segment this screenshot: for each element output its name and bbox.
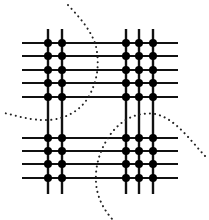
vertex-node	[58, 147, 66, 155]
vertex-node	[135, 79, 143, 87]
vertex-node	[122, 52, 130, 60]
vertex-node	[149, 147, 157, 155]
horizontal-lines	[22, 43, 178, 178]
vertex-node	[58, 66, 66, 74]
vertex-node	[135, 39, 143, 47]
vertex-node	[58, 79, 66, 87]
vertex-node	[149, 134, 157, 142]
vertex-node	[135, 66, 143, 74]
vertex-node	[58, 39, 66, 47]
vertex-node	[58, 134, 66, 142]
vertex-node	[149, 39, 157, 47]
vertex-node	[44, 52, 52, 60]
vertex-node	[58, 52, 66, 60]
vertex-node	[44, 39, 52, 47]
vertex-node	[58, 93, 66, 101]
upper-left-cut	[4, 5, 98, 120]
vertex-node	[122, 174, 130, 182]
vertex-node	[44, 147, 52, 155]
vertex-node	[122, 93, 130, 101]
vertex-node	[135, 93, 143, 101]
vertex-node	[44, 134, 52, 142]
vertex-node	[122, 160, 130, 168]
grid-diagram	[0, 0, 209, 220]
mesh-graph	[0, 0, 209, 220]
vertex-node	[44, 79, 52, 87]
vertex-node	[149, 79, 157, 87]
vertex-node	[122, 147, 130, 155]
vertex-node	[149, 52, 157, 60]
vertex-node	[135, 147, 143, 155]
vertex-node	[135, 134, 143, 142]
vertex-node	[44, 160, 52, 168]
vertex-node	[149, 66, 157, 74]
vertex-node	[44, 66, 52, 74]
vertex-node	[149, 174, 157, 182]
vertex-node	[58, 160, 66, 168]
vertex-node	[44, 174, 52, 182]
vertex-node	[58, 174, 66, 182]
vertex-node	[135, 174, 143, 182]
vertex-node	[122, 134, 130, 142]
vertex-node	[122, 66, 130, 74]
vertex-node	[122, 39, 130, 47]
dotted-cut-curves	[4, 5, 205, 220]
vertex-node	[149, 93, 157, 101]
vertex-node	[122, 79, 130, 87]
vertex-node	[135, 52, 143, 60]
vertex-node	[135, 160, 143, 168]
vertex-node	[44, 93, 52, 101]
vertex-node	[149, 160, 157, 168]
